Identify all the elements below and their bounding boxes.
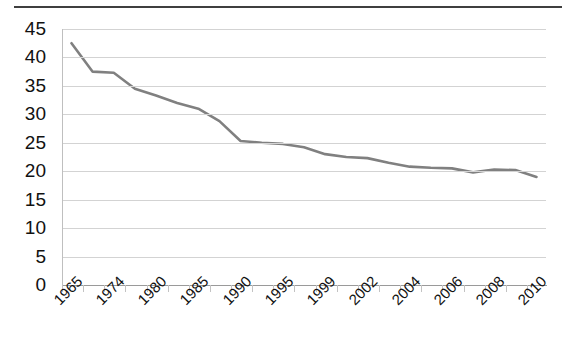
gridline <box>62 228 546 229</box>
y-axis-tick-label: 25 <box>0 133 46 152</box>
gridline <box>62 86 546 87</box>
y-axis-tick-label: 20 <box>0 161 46 180</box>
y-axis-tick-label: 15 <box>0 190 46 209</box>
gridline <box>62 57 546 58</box>
y-axis-line <box>62 29 63 286</box>
x-axis-tick <box>210 285 211 292</box>
y-axis-tick-label: 30 <box>0 104 46 123</box>
gridline <box>62 29 546 30</box>
gridline <box>62 171 546 172</box>
y-axis-tick-label: 10 <box>0 218 46 237</box>
gridline <box>62 143 546 144</box>
gridline <box>62 257 546 258</box>
data-series-line <box>62 29 546 285</box>
y-axis-tick-label: 40 <box>0 47 46 66</box>
line-chart: 454035302520151050 196519741980198519901… <box>0 0 570 358</box>
plot-area <box>62 29 546 285</box>
y-axis-tick-label: 35 <box>0 76 46 95</box>
series-1-polyline <box>72 43 537 177</box>
x-axis-line <box>62 285 547 286</box>
x-axis-tick-label: 1965 <box>50 272 86 308</box>
y-axis-tick-label: 0 <box>0 275 46 294</box>
gridline <box>62 200 546 201</box>
chart-figure: 454035302520151050 196519741980198519901… <box>0 0 570 358</box>
y-axis-tick-label: 45 <box>0 19 46 38</box>
x-axis-tick <box>379 285 380 292</box>
y-axis-tick-label: 5 <box>0 247 46 266</box>
gridline <box>62 114 546 115</box>
